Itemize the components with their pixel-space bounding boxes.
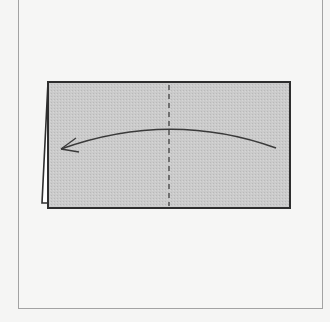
paper-front [48, 82, 290, 208]
origami-fold-diagram [0, 0, 330, 322]
